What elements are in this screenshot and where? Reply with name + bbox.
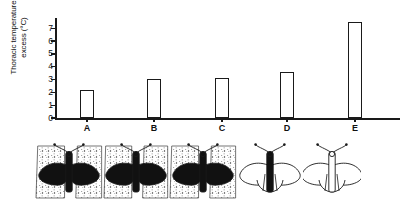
bar-E <box>348 22 362 118</box>
y-tick-label-3: 3 <box>31 75 53 84</box>
illustration-row <box>0 140 413 206</box>
x-label-D: D <box>274 123 300 133</box>
y-axis-line <box>55 18 57 118</box>
y-axis-title-line2: excess (°C) <box>18 0 28 97</box>
bar-A <box>80 90 94 118</box>
y-tick-label-7: 7 <box>31 24 53 33</box>
x-tick-E <box>354 118 355 122</box>
y-axis-title: Thoracic temperature excess (°C) <box>9 0 28 97</box>
figure: Thoracic temperature excess (°C) 0123456… <box>0 0 413 206</box>
y-tick-label-0: 0 <box>31 114 53 123</box>
illustration-C <box>169 140 237 206</box>
illustration-B <box>103 140 169 206</box>
y-tick-label-2: 2 <box>31 88 53 97</box>
plot-area: 01234567 ABCDE <box>55 18 400 118</box>
bar-B <box>147 79 161 118</box>
x-label-B: B <box>141 123 167 133</box>
illustration-A <box>35 140 103 206</box>
y-tick-label-1: 1 <box>31 101 53 110</box>
x-label-E: E <box>342 123 368 133</box>
bar-C <box>215 78 229 118</box>
x-tick-B <box>153 118 154 122</box>
y-tick-label-4: 4 <box>31 62 53 71</box>
y-axis-title-line1: Thoracic temperature <box>9 0 18 74</box>
y-tick-label-6: 6 <box>31 37 53 46</box>
bar-D <box>280 72 294 118</box>
x-tick-C <box>221 118 222 122</box>
x-label-C: C <box>209 123 235 133</box>
x-axis-line <box>55 118 400 120</box>
x-label-A: A <box>74 123 100 133</box>
x-tick-A <box>86 118 87 122</box>
x-tick-D <box>286 118 287 122</box>
bar-chart: Thoracic temperature excess (°C) 0123456… <box>0 0 413 140</box>
y-tick-label-5: 5 <box>31 49 53 58</box>
illustration-E <box>303 140 361 206</box>
illustration-D <box>237 140 303 206</box>
